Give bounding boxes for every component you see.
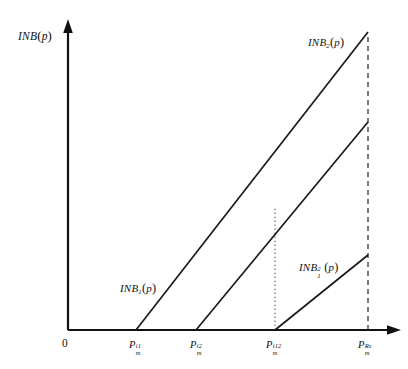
plot-canvas — [0, 0, 408, 369]
x-tick-label-pm-i12: Pi12m — [266, 340, 279, 351]
curve-inb2 — [196, 122, 368, 330]
x-tick-pm-i2-sub: m — [197, 350, 202, 357]
curve-label-inb2: INB2(p) — [308, 36, 344, 50]
y-axis-label-name: INB — [18, 30, 37, 42]
curve-label-inb1-close-paren: ) — [152, 281, 156, 295]
x-tick-pm-i1-sub: m — [136, 350, 141, 357]
y-axis-label-close-paren: ) — [48, 29, 53, 43]
curve-label-inb1sup2-base: INB — [299, 261, 317, 273]
x-tick-label-pm-i2: Pi2m — [190, 340, 203, 351]
x-tick-pm-i1-base: P — [129, 339, 136, 350]
curve-label-inb2-base: INB — [308, 36, 326, 48]
x-tick-pm-rs-sub: m — [365, 350, 370, 357]
origin-label: 0 — [62, 338, 68, 350]
curve-label-inb1-sup2: INB21(p) — [299, 261, 338, 273]
curve-label-inb1sup2-sub: 1 — [317, 273, 321, 280]
y-axis — [63, 19, 73, 330]
x-axis — [68, 325, 401, 335]
curve-label-inb1: INB1(p) — [120, 282, 156, 296]
x-tick-label-pm-rs: PRsm — [358, 340, 371, 351]
curve-label-inb2-close-paren: ) — [340, 35, 344, 49]
y-axis-label: INB(p) — [18, 30, 52, 43]
figure-root: INB(p) INB2(p) INB1(p) INB21(p) 0 Pi1m P… — [0, 0, 408, 369]
x-tick-pm-i2-base: P — [190, 339, 197, 350]
x-tick-pm-i12-base: P — [266, 339, 273, 350]
curve-label-inb1sup2-close-paren: ) — [334, 260, 338, 274]
curve-inb1 — [136, 32, 368, 330]
x-tick-pm-rs-base: P — [358, 339, 365, 350]
curve-label-inb1-base: INB — [120, 282, 138, 294]
x-tick-pm-i12-sub: m — [273, 350, 278, 357]
x-tick-label-pm-i1: Pi1m — [129, 340, 142, 351]
